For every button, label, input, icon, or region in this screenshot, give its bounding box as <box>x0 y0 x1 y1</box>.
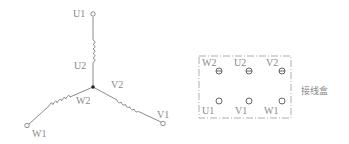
label-w1: W1 <box>32 129 46 139</box>
box-label-v2: V2 <box>266 58 278 68</box>
label-v1: V1 <box>157 110 169 120</box>
box-terminal-v1-icon <box>246 98 252 104</box>
winding-v <box>93 87 165 126</box>
box-label-u1: U1 <box>202 106 214 116</box>
box-label-w2: W2 <box>202 58 216 68</box>
winding-u <box>91 12 95 87</box>
box-label-w1: W1 <box>264 106 278 116</box>
terminal-v1-icon <box>161 121 165 125</box>
box-label-u2: U2 <box>234 58 246 68</box>
terminal-u1-icon <box>91 12 95 16</box>
terminal-w1-icon <box>25 123 29 127</box>
label-u2: U2 <box>74 61 86 71</box>
box-terminal-w1-icon <box>279 98 285 104</box>
label-v2: V2 <box>111 80 123 90</box>
box-terminal-u1-icon <box>216 98 222 104</box>
neutral-junction-icon <box>91 85 95 89</box>
label-u1: U1 <box>73 9 85 19</box>
label-w2: W2 <box>76 96 90 106</box>
winding-w <box>25 87 93 128</box>
terminal-box-title: 接线盒 <box>301 86 328 96</box>
box-label-v1: V1 <box>235 106 247 116</box>
star-connection-diagram <box>0 0 349 144</box>
